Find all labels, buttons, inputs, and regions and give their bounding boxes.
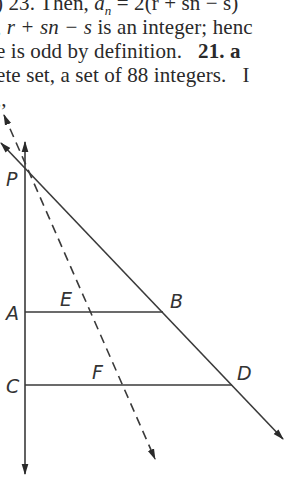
geometry-figure: P A E B C F D: [0, 0, 293, 482]
label-C: C: [6, 375, 20, 397]
transversal-solid-line: [1, 143, 283, 439]
label-E: E: [60, 288, 72, 310]
label-D: D: [237, 362, 252, 384]
label-F: F: [92, 361, 104, 383]
label-A: A: [4, 302, 19, 324]
label-P: P: [6, 168, 18, 190]
transversal-dashed-line: [4, 115, 155, 459]
label-B: B: [170, 290, 183, 312]
